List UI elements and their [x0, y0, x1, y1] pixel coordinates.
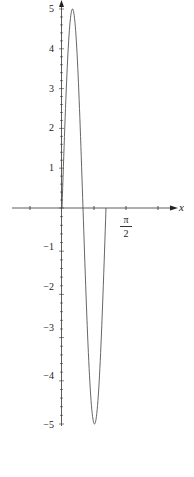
y-axis-arrow-icon [59, 0, 64, 7]
two-denominator: 2 [119, 228, 133, 239]
function-curve [62, 9, 106, 424]
y-tick-label-neg1: −1 [40, 242, 54, 252]
x-axis-arrow-icon [170, 206, 178, 211]
x-axis-label: x [179, 202, 184, 212]
y-tick-label-1: 1 [40, 163, 54, 173]
x-tick-label-pi-over-2: π 2 [119, 214, 133, 239]
y-tick-label-5: 5 [40, 4, 54, 14]
y-tick-label-3: 3 [40, 84, 54, 94]
y-tick-label-neg2: −2 [40, 282, 54, 292]
y-tick-label-neg3: −3 [40, 323, 54, 333]
y-tick-label-2: 2 [40, 123, 54, 133]
plot-canvas [0, 0, 194, 477]
pi-numerator: π [119, 214, 133, 225]
y-tick-label-neg4: −4 [40, 371, 54, 381]
y-tick-label-4: 4 [40, 44, 54, 54]
y-tick-label-neg5: −5 [40, 420, 54, 430]
